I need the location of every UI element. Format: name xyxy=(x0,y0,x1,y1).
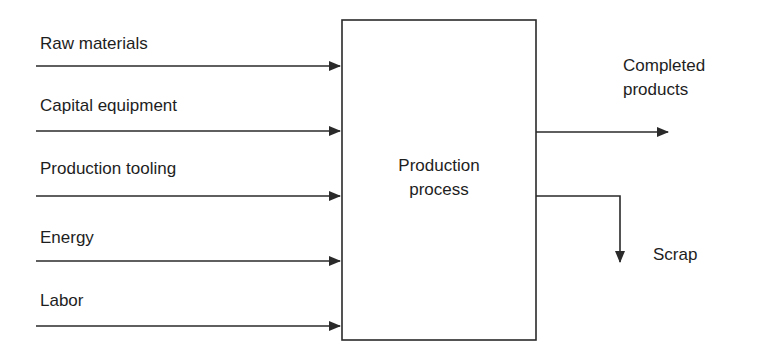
input-label-energy: Energy xyxy=(40,228,94,248)
output-arrow-scrap xyxy=(536,196,620,262)
output-label-completed-products: Completed products xyxy=(623,56,705,100)
output-label-scrap: Scrap xyxy=(653,245,697,265)
input-label-raw-materials: Raw materials xyxy=(40,34,148,54)
process-label: Production process xyxy=(342,156,536,200)
process-label-line2: process xyxy=(342,180,536,200)
completed-products-line2: products xyxy=(623,80,705,100)
input-label-capital-equipment: Capital equipment xyxy=(40,96,177,116)
completed-products-line1: Completed xyxy=(623,56,705,76)
input-label-production-tooling: Production tooling xyxy=(40,159,176,179)
process-label-line1: Production xyxy=(342,156,536,176)
input-label-labor: Labor xyxy=(40,291,83,311)
